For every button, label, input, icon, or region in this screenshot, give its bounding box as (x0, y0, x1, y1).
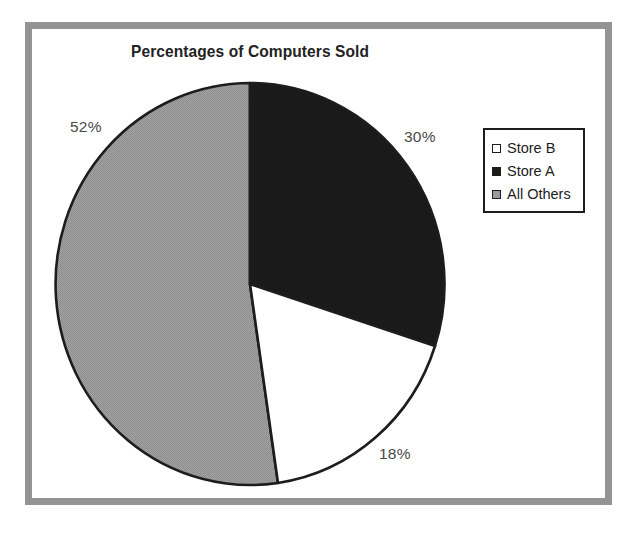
pie-chart-svg (50, 76, 454, 494)
data-label-all-others: 52% (70, 118, 102, 136)
gray-swatch-icon (492, 190, 501, 199)
screenshot-root: Percentages of Computers Sold 52% 30% 18… (0, 0, 643, 546)
legend-item-store-a[interactable]: Store A (492, 160, 583, 183)
legend-label-store-b: Store B (507, 141, 555, 156)
chart-legend: Store B Store A All Others (483, 128, 585, 213)
data-label-store-b: 18% (379, 445, 411, 463)
pie-slice-all-others[interactable] (56, 83, 278, 485)
data-label-store-a: 30% (404, 128, 436, 146)
white-swatch-icon (492, 144, 501, 153)
chart-title: Percentages of Computers Sold (71, 42, 428, 61)
legend-item-all-others[interactable]: All Others (492, 183, 583, 206)
legend-label-all-others: All Others (507, 187, 571, 202)
legend-label-store-a: Store A (507, 164, 555, 179)
legend-item-store-b[interactable]: Store B (492, 137, 583, 160)
pie-chart (50, 76, 454, 494)
black-swatch-icon (492, 167, 501, 176)
